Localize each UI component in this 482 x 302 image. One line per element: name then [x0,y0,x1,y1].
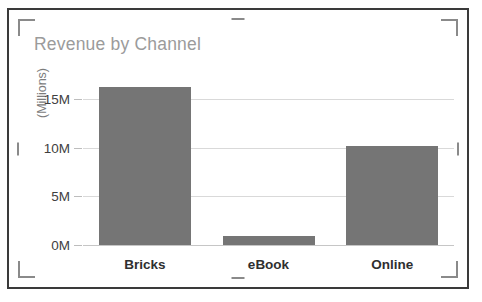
bar-online[interactable] [346,146,438,245]
y-axis-label: 15M [44,92,70,107]
resize-handle-bottom[interactable] [232,277,245,279]
chart-title: Revenue by Channel [34,34,201,55]
category-label-ebook: eBook [248,257,289,272]
y-axis-tick [74,245,82,246]
plot-area: 0M5M10M15M [83,80,454,245]
y-axis-tick [74,196,82,197]
y-axis-tick [74,99,82,100]
selection-corner-bottom-right-icon[interactable] [441,261,458,278]
chart-plot-surface[interactable]: Revenue by Channel (Millions) 0M5M10M15M… [9,10,467,287]
resize-handle-left[interactable] [17,142,19,155]
selection-corner-top-left-icon[interactable] [18,19,35,36]
y-axis-label: 10M [44,140,70,155]
y-axis-label: 5M [51,189,70,204]
bar-ebook[interactable] [223,236,315,245]
resize-handle-right[interactable] [457,142,459,155]
chart-object[interactable]: Revenue by Channel (Millions) 0M5M10M15M… [7,8,469,289]
bar-bricks[interactable] [99,87,191,245]
category-label-bricks: Bricks [124,257,165,272]
selection-corner-top-right-icon[interactable] [441,19,458,36]
resize-handle-top[interactable] [232,18,245,20]
y-axis-tick [74,148,82,149]
category-label-online: Online [371,257,413,272]
y-axis-label: 0M [51,238,70,253]
gridline [83,245,454,246]
selection-corner-bottom-left-icon[interactable] [18,261,35,278]
